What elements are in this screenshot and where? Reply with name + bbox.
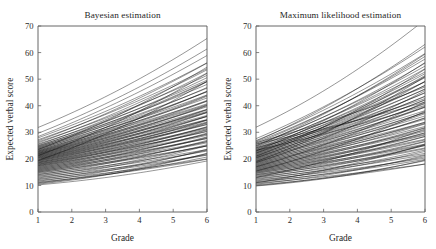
regression-lines-group	[256, 20, 425, 186]
maximum-likelihood-estimation-plot: Maximum likelihood estimation01020304050…	[218, 0, 436, 249]
x-tick-label: 3	[103, 215, 107, 225]
y-tick-label: 70	[25, 21, 34, 31]
regression-lines-group	[38, 38, 207, 184]
y-tick-label: 50	[243, 74, 252, 84]
axis-spines	[38, 26, 207, 212]
chart-panel-maximum-likelihood: Maximum likelihood estimation01020304050…	[218, 0, 436, 249]
x-tick-label: 4	[355, 215, 360, 225]
y-tick-label: 60	[25, 48, 34, 58]
regression-line	[256, 20, 425, 128]
y-tick-label: 10	[25, 181, 34, 191]
y-tick-label: 70	[243, 21, 252, 31]
x-tick-label: 6	[205, 215, 210, 225]
y-tick-label: 40	[243, 101, 252, 111]
chart-panel-bayesian: Bayesian estimation010203040506070123456…	[0, 0, 218, 249]
y-tick-label: 50	[25, 74, 34, 84]
x-tick-label: 5	[171, 215, 175, 225]
y-axis-title: Expected verbal score	[223, 78, 233, 161]
x-tick-label: 2	[70, 215, 74, 225]
axis-box-top-right	[38, 26, 207, 212]
figure-root: Bayesian estimation010203040506070123456…	[0, 0, 436, 249]
y-tick-label: 20	[25, 154, 34, 164]
x-axis-title: Grade	[329, 233, 352, 243]
x-tick-label: 1	[36, 215, 40, 225]
x-tick-label: 2	[288, 215, 292, 225]
y-tick-label: 60	[243, 48, 252, 58]
plot-title: Bayesian estimation	[84, 10, 160, 20]
x-tick-label: 3	[321, 215, 325, 225]
y-tick-label: 10	[243, 181, 252, 191]
y-tick-label: 0	[247, 207, 251, 217]
x-tick-label: 5	[389, 215, 393, 225]
y-tick-label: 0	[29, 207, 33, 217]
x-tick-label: 1	[254, 215, 258, 225]
x-tick-label: 4	[137, 215, 142, 225]
y-axis-title: Expected verbal score	[5, 78, 15, 161]
y-tick-label: 20	[243, 154, 252, 164]
y-tick-label: 30	[243, 127, 252, 137]
x-axis-title: Grade	[111, 233, 134, 243]
bayesian-estimation-plot: Bayesian estimation010203040506070123456…	[0, 0, 218, 249]
y-tick-label: 40	[25, 101, 34, 111]
x-tick-label: 6	[423, 215, 428, 225]
plot-title: Maximum likelihood estimation	[280, 10, 402, 20]
y-tick-label: 30	[25, 127, 34, 137]
